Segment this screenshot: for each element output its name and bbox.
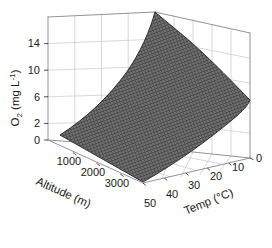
x-tick-label-1000: 1000: [57, 155, 81, 167]
plot-canvas: 14 10 6 2 0 O2 (mg L-1) 1000 2000 3000: [0, 0, 272, 248]
x-tick-label-2000: 2000: [81, 166, 105, 178]
y-tick-label-20: 20: [210, 170, 222, 182]
z-title-unit-close: ): [9, 69, 21, 73]
y-tick-label-10: 10: [232, 161, 244, 173]
z-tick-label-14: 14: [28, 37, 40, 49]
z-title-unit-open: (mg L: [9, 80, 21, 113]
z-title-base: O: [9, 117, 21, 126]
surface-chart-3d: 14 10 6 2 0 O2 (mg L-1) 1000 2000 3000: [0, 0, 272, 248]
y-tick-label-40: 40: [166, 188, 178, 200]
z-tick-label-10: 10: [28, 64, 40, 76]
z-tick-label-2: 2: [34, 117, 40, 129]
y-tick-label-30: 30: [188, 179, 200, 191]
x-tick-label-3000: 3000: [105, 177, 129, 189]
z-tick-label-0: 0: [34, 134, 40, 146]
y-tick-label-0: 0: [256, 152, 262, 164]
y-tick-label-50: 50: [144, 197, 156, 209]
z-tick-label-6: 6: [34, 91, 40, 103]
